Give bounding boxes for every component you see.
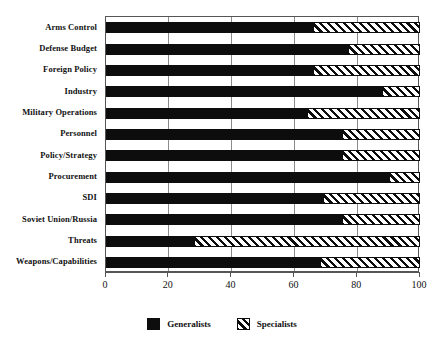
bar-segment-generalists (106, 257, 320, 268)
bar-row (106, 44, 420, 55)
bar-segment-specialists (389, 172, 420, 183)
bar-segment-specialists (313, 65, 420, 76)
bar-row (106, 22, 420, 33)
bar-segment-generalists (106, 44, 348, 55)
x-axis-tick-label: 100 (412, 279, 427, 290)
x-axis-tick-label: 0 (103, 279, 108, 290)
x-axis-tick (419, 272, 420, 277)
x-axis-tick (105, 272, 106, 277)
diagonal-hatch-swatch (237, 318, 250, 330)
bar-segment-generalists (106, 172, 389, 183)
bar-row (106, 257, 420, 268)
x-axis-line (105, 272, 419, 273)
category-label: Arms Control (45, 22, 97, 32)
bar-row (106, 108, 420, 119)
x-axis-tick-label: 40 (226, 279, 236, 290)
category-label: Personnel (60, 128, 97, 138)
bar-segment-generalists (106, 86, 382, 97)
bar-row (106, 214, 420, 225)
bar-segment-specialists (323, 193, 420, 204)
bar-segment-specialists (320, 257, 420, 268)
bar-segment-specialists (342, 214, 421, 225)
bar-row (106, 193, 420, 204)
category-label: Weapons/Capabilities (16, 256, 97, 266)
legend-label: Specialists (257, 319, 297, 329)
bar-segment-generalists (106, 22, 313, 33)
bar-segment-generalists (106, 193, 323, 204)
category-axis-labels: Arms ControlDefense BudgetForeign Policy… (0, 16, 101, 272)
bar-segment-specialists (348, 44, 420, 55)
horizontal-stacked-bar-chart: Arms ControlDefense BudgetForeign Policy… (0, 0, 444, 351)
x-axis-tick (230, 272, 231, 277)
legend-entry: Specialists (237, 318, 297, 330)
bar-segment-specialists (313, 22, 420, 33)
bar-row (106, 236, 420, 247)
bar-row (106, 150, 420, 161)
bar-segment-specialists (194, 236, 420, 247)
x-axis-tick-label: 60 (288, 279, 298, 290)
bar-segment-generalists (106, 150, 342, 161)
x-axis-tick-label: 80 (351, 279, 361, 290)
x-axis-tick (167, 272, 168, 277)
bar-segment-generalists (106, 236, 194, 247)
gridline (168, 17, 169, 271)
bar-segment-generalists (106, 65, 313, 76)
gridline (357, 17, 358, 271)
x-axis-tick-label: 20 (163, 279, 173, 290)
gridline (294, 17, 295, 271)
bar-segment-specialists (342, 129, 421, 140)
category-label: Industry (65, 86, 97, 96)
category-label: Defense Budget (39, 43, 97, 53)
category-label: Procurement (49, 171, 97, 181)
category-label: SDI (83, 192, 97, 202)
bar-row (106, 65, 420, 76)
bar-row (106, 172, 420, 183)
chart-legend: GeneralistsSpecialists (0, 318, 444, 330)
category-label: Military Operations (22, 107, 97, 117)
bar-row (106, 129, 420, 140)
bar-segment-specialists (342, 150, 421, 161)
bar-segment-specialists (307, 108, 420, 119)
category-label: Foreign Policy (43, 64, 97, 74)
bar-row (106, 86, 420, 97)
category-label: Threats (68, 235, 97, 245)
bar-segment-generalists (106, 129, 342, 140)
bar-segment-generalists (106, 214, 342, 225)
bar-segment-specialists (382, 86, 420, 97)
solid-black-swatch (147, 318, 160, 330)
plot-area (105, 16, 419, 272)
legend-entry: Generalists (147, 318, 211, 330)
bar-segment-generalists (106, 108, 307, 119)
x-axis-tick (293, 272, 294, 277)
category-label: Policy/Strategy (40, 150, 97, 160)
category-label: Soviet Union/Russia (22, 214, 97, 224)
gridline (231, 17, 232, 271)
x-axis-tick (356, 272, 357, 277)
legend-label: Generalists (167, 319, 211, 329)
